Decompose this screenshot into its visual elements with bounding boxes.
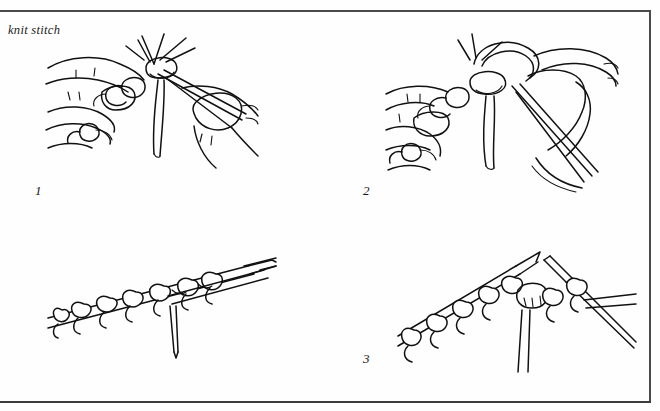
figure-step-2 [386,26,618,194]
figure-step-3 [398,238,636,374]
page-frame-right-rule [649,10,651,403]
figure-step-1 [46,30,258,180]
scanned-page: knit stitch [0,0,660,411]
step-number-3: 3 [363,351,370,367]
step-number-1: 1 [35,183,42,199]
figure-unnumbered-detail [48,248,276,360]
step-number-2: 2 [363,183,370,199]
page-frame-bottom-rule [0,401,651,403]
page-frame-top-rule [0,10,651,12]
